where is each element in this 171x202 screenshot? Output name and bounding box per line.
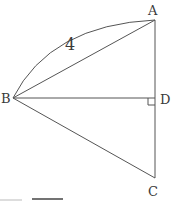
label-c: C bbox=[148, 184, 158, 199]
label-b: B bbox=[1, 91, 11, 106]
right-angle-marker bbox=[148, 98, 155, 105]
segment-ab bbox=[13, 20, 155, 98]
geometry-diagram: A B D C 4 bbox=[0, 0, 171, 202]
arc-length-label: 4 bbox=[65, 35, 75, 54]
segment-bc bbox=[13, 98, 155, 178]
label-a: A bbox=[147, 3, 158, 18]
label-d: D bbox=[160, 92, 170, 107]
